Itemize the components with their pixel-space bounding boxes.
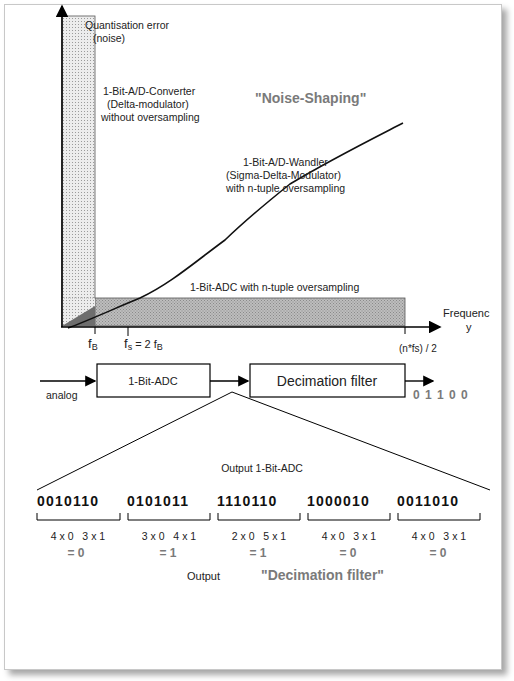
group-count-4: 4 x 0 3 x 1: [322, 530, 376, 542]
y-axis-label: Quantisation error: [85, 19, 170, 31]
group-result-1: = 0: [67, 546, 84, 560]
output-bits: 0 1 1 0 0: [413, 388, 469, 402]
bracket-2: [128, 513, 210, 520]
annotation-delta-3: without oversampling: [100, 111, 200, 123]
sigma-delta-noise-curve: [68, 123, 403, 328]
bracket-4: [308, 513, 390, 520]
y-axis-label-sub: (noise): [93, 32, 125, 44]
group-result-3: = 1: [249, 546, 266, 560]
noise-shaping-diagram: Quantisation error (noise) "Noise-Shapin…: [0, 0, 514, 681]
group-count-3: 2 x 0 5 x 1: [232, 530, 286, 542]
adc-block-label: 1-Bit-ADC: [128, 375, 178, 387]
zoom-line-left: [37, 392, 232, 490]
x-axis-label-sub: y: [466, 321, 472, 333]
noise-region-oversampling: [95, 298, 405, 326]
annotation-sigma-2: (Sigma-Delta-Modulator): [226, 169, 341, 181]
annotation-sigma-3: with n-tuple oversampling: [225, 182, 345, 194]
group-count-2: 3 x 0 4 x 1: [142, 530, 196, 542]
fb-label: fB: [88, 336, 98, 352]
bitstream: 0010110 0101011 1110110 1000010 0011010: [37, 493, 459, 509]
group-result-4: = 0: [339, 546, 356, 560]
noise-region-delta: [62, 16, 95, 326]
bit-group-1: 0010110: [37, 493, 99, 509]
output-caption: Output 1-Bit-ADC: [221, 462, 303, 474]
fs-label: fs= 2 fB: [124, 336, 163, 352]
annotation-adc: 1-Bit-ADC with n-tuple oversampling: [190, 281, 359, 293]
x-axis-label: Frequenc: [443, 307, 490, 319]
group-result-2: = 1: [159, 546, 176, 560]
bracket-1: [37, 513, 120, 520]
group-count-1: 4 x 0 3 x 1: [51, 530, 105, 542]
bit-group-2: 0101011: [127, 493, 189, 509]
annotation-delta-1: 1-Bit-A/D-Converter: [103, 85, 196, 97]
bit-group-5: 0011010: [397, 493, 459, 509]
bit-group-3: 1110110: [217, 493, 278, 509]
annotation-sigma-1: 1-Bit-A/D-Wandler: [243, 156, 328, 168]
nfs-label: (n*fs) / 2: [399, 343, 437, 354]
group-brackets: [37, 513, 480, 520]
footer-decimation-filter-label: "Decimation filter": [261, 567, 384, 583]
zoom-line-right: [232, 392, 490, 490]
footer-output-label: Output: [187, 570, 220, 582]
decimation-filter-label: Decimation filter: [277, 373, 378, 389]
bracket-3: [218, 513, 300, 520]
group-result-5: = 0: [429, 546, 446, 560]
input-label: analog: [46, 389, 78, 401]
annotation-delta-2: (Delta-modulator): [107, 98, 189, 110]
bit-group-4: 1000010: [307, 493, 370, 509]
diagram-title: "Noise-Shaping": [255, 90, 366, 106]
group-count-5: 4 x 0 3 x 1: [412, 530, 466, 542]
bracket-5: [398, 513, 480, 520]
